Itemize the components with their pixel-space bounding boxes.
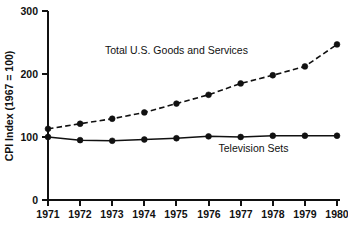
x-tick-label-1976: 1976 bbox=[197, 208, 221, 220]
data-point bbox=[270, 133, 276, 139]
data-point bbox=[109, 138, 115, 144]
y-axis-title: CPI Index (1967 = 100) bbox=[3, 51, 15, 162]
y-tick-label-200: 200 bbox=[20, 68, 38, 80]
data-point bbox=[109, 116, 115, 122]
cpi-index-line-chart: 0 100 200 300 CPI Index (1967 = 100) 197… bbox=[0, 0, 348, 225]
chart-background bbox=[0, 0, 348, 225]
x-tick-label-1971: 1971 bbox=[36, 208, 60, 220]
x-tick-label-1980: 1980 bbox=[325, 208, 348, 220]
y-tick-label-300: 300 bbox=[20, 5, 38, 17]
data-point bbox=[45, 134, 51, 140]
data-point bbox=[141, 110, 147, 116]
data-point bbox=[238, 81, 244, 87]
x-tick-label-1979: 1979 bbox=[293, 208, 317, 220]
data-point bbox=[77, 137, 83, 143]
chart-figure: 0 100 200 300 CPI Index (1967 = 100) 197… bbox=[0, 0, 348, 225]
data-point bbox=[334, 41, 340, 47]
y-tick-label-100: 100 bbox=[20, 131, 38, 143]
data-point bbox=[206, 92, 212, 98]
data-point bbox=[302, 64, 308, 70]
x-tick-label-1978: 1978 bbox=[261, 208, 285, 220]
data-point bbox=[334, 133, 340, 139]
data-point bbox=[238, 134, 244, 140]
data-point bbox=[141, 137, 147, 143]
x-tick-label-1974: 1974 bbox=[132, 208, 156, 220]
data-point bbox=[302, 133, 308, 139]
data-point bbox=[206, 133, 212, 139]
data-point bbox=[77, 121, 83, 127]
data-point bbox=[270, 72, 276, 78]
annotation-total-us-goods-and-services: Total U.S. Goods and Services bbox=[105, 44, 248, 56]
annotation-television-sets: Television Sets bbox=[218, 142, 288, 154]
x-tick-label-1975: 1975 bbox=[164, 208, 188, 220]
data-point bbox=[174, 101, 180, 107]
data-point bbox=[174, 135, 180, 141]
x-tick-label-1973: 1973 bbox=[100, 208, 124, 220]
x-tick-label-1972: 1972 bbox=[68, 208, 92, 220]
y-tick-label-0: 0 bbox=[32, 194, 38, 206]
x-tick-label-1977: 1977 bbox=[229, 208, 253, 220]
data-point bbox=[45, 126, 51, 132]
